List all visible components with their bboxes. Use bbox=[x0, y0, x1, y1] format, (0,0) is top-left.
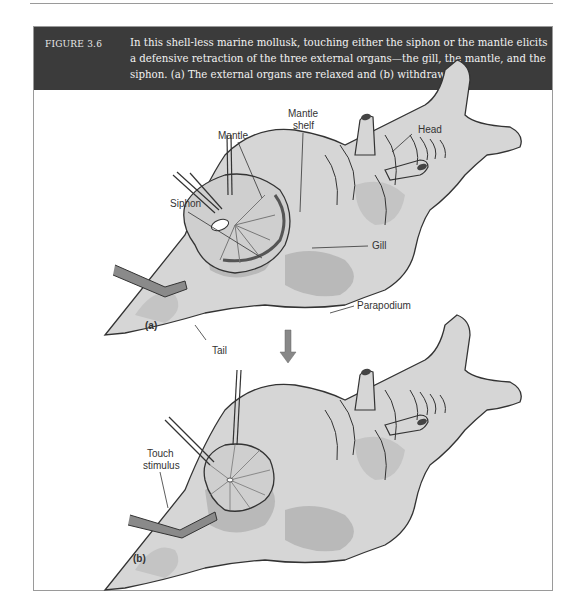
label-mantle-shelf-line1: Mantle bbox=[288, 108, 318, 120]
label-head: Head bbox=[418, 124, 442, 136]
label-parapodium: Parapodium bbox=[357, 300, 411, 312]
label-tail: Tail bbox=[212, 345, 227, 357]
label-touch-line1: Touch bbox=[147, 448, 174, 460]
label-mantle: Mantle bbox=[218, 130, 248, 142]
label-touch-line2: stimulus bbox=[143, 460, 180, 472]
panel-label-a: (a) bbox=[145, 320, 157, 331]
down-arrow bbox=[280, 330, 296, 363]
mollusk-illustration bbox=[0, 0, 580, 599]
label-mantle-shelf-line2: shelf bbox=[293, 120, 314, 132]
label-gill: Gill bbox=[372, 240, 386, 252]
panel-a-drawing bbox=[105, 60, 521, 335]
leader-line-touch bbox=[160, 472, 168, 508]
panel-label-b: (b) bbox=[133, 553, 146, 564]
label-siphon: Siphon bbox=[170, 198, 201, 210]
